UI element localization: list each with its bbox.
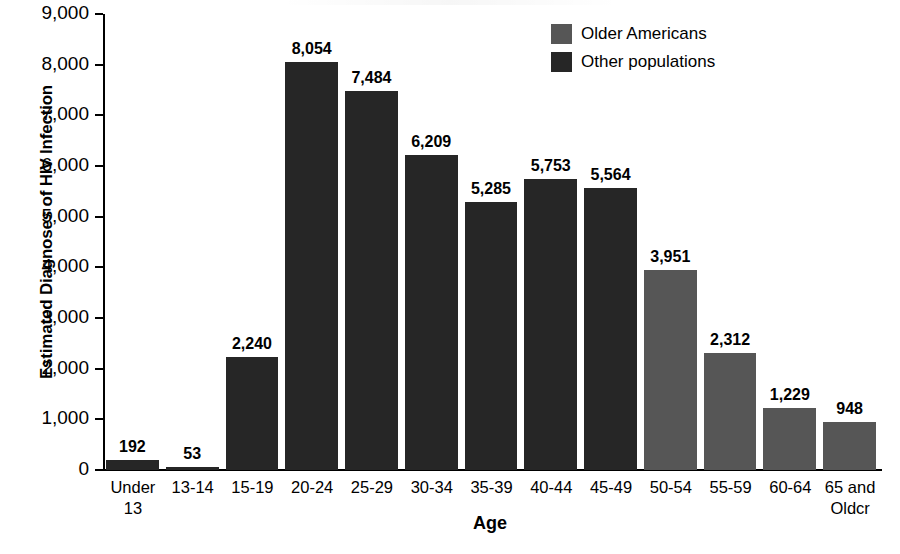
bar-column[interactable]: 192 — [106, 14, 159, 470]
bar-column[interactable]: 3,951 — [644, 14, 697, 470]
x-axis-tick-label: 65 and Oldcr — [814, 477, 886, 519]
bar-value-label: 2,312 — [710, 331, 750, 349]
legend-item-label: Older Americans — [581, 24, 707, 44]
bar-value-label: 7,484 — [351, 69, 391, 87]
y-axis-tick-label: 5,000 — [0, 205, 89, 227]
y-axis-tick-label: 0 — [0, 458, 89, 480]
y-axis-tick-mark — [95, 64, 103, 66]
bar-column[interactable]: 5,564 — [584, 14, 637, 470]
y-axis-tick-mark — [95, 165, 103, 167]
bar-column[interactable]: 5,285 — [465, 14, 518, 470]
bar-value-label: 2,240 — [232, 335, 272, 353]
bar[interactable] — [226, 357, 279, 470]
bar-column[interactable]: 948 — [823, 14, 876, 470]
y-axis-tick-mark — [95, 114, 103, 116]
legend-item-label: Other populations — [581, 52, 715, 72]
bar[interactable] — [763, 408, 816, 470]
bar[interactable] — [465, 202, 518, 470]
scan-artifact — [280, 0, 620, 5]
bar[interactable] — [285, 62, 338, 470]
bar[interactable] — [405, 155, 458, 470]
bar-value-label: 6,209 — [411, 133, 451, 151]
y-axis-tick-mark — [95, 368, 103, 370]
bar[interactable] — [345, 91, 398, 470]
hiv-diagnoses-by-age-bar-chart: Estimated Diagnoses of HIV Infection 9,0… — [0, 0, 900, 554]
bar-value-label: 5,285 — [471, 180, 511, 198]
bar-value-label: 5,753 — [531, 157, 571, 175]
y-axis-tick-mark — [95, 266, 103, 268]
bar-column[interactable]: 2,312 — [704, 14, 757, 470]
legend-item[interactable]: Older Americans — [551, 24, 715, 44]
bar[interactable] — [166, 467, 219, 470]
bar-column[interactable]: 7,484 — [345, 14, 398, 470]
bar-value-label: 948 — [836, 400, 863, 418]
bar-column[interactable]: 53 — [166, 14, 219, 470]
legend-color-swatch — [551, 52, 572, 72]
y-axis-tick-label: 7,000 — [0, 103, 89, 125]
legend-item[interactable]: Other populations — [551, 52, 715, 72]
plot-area: 192532,2408,0547,4846,2095,2855,7535,564… — [103, 14, 880, 470]
bar[interactable] — [644, 270, 697, 470]
y-axis-tick-mark — [95, 13, 103, 15]
bar-column[interactable]: 2,240 — [226, 14, 279, 470]
bar[interactable] — [823, 422, 876, 470]
y-axis-tick-label: 4,000 — [0, 255, 89, 277]
bar[interactable] — [584, 188, 637, 470]
y-axis-tick-mark — [95, 216, 103, 218]
bar-value-label: 5,564 — [590, 166, 630, 184]
bar-value-label: 1,229 — [770, 386, 810, 404]
bar[interactable] — [106, 460, 159, 470]
bar-value-label: 53 — [183, 445, 201, 463]
legend-color-swatch — [551, 24, 572, 44]
y-axis-tick-mark — [95, 418, 103, 420]
bar-column[interactable]: 5,753 — [524, 14, 577, 470]
bar[interactable] — [704, 353, 757, 470]
bar[interactable] — [524, 179, 577, 470]
y-axis-tick-label: 1,000 — [0, 407, 89, 429]
bar-column[interactable]: 8,054 — [285, 14, 338, 470]
y-axis-tick-label: 2,000 — [0, 357, 89, 379]
bar-value-label: 192 — [119, 438, 146, 456]
bar-value-label: 3,951 — [650, 248, 690, 266]
y-axis-tick-label: 6,000 — [0, 154, 89, 176]
y-axis-tick-label: 3,000 — [0, 306, 89, 328]
y-axis-tick-mark — [95, 317, 103, 319]
x-axis-title: Age — [390, 513, 590, 534]
y-axis-tick-label: 8,000 — [0, 53, 89, 75]
bar-value-label: 8,054 — [292, 40, 332, 58]
y-axis-tick-mark — [95, 469, 103, 471]
y-axis-tick-label: 9,000 — [0, 2, 89, 24]
bar-column[interactable]: 1,229 — [763, 14, 816, 470]
chart-legend: Older AmericansOther populations — [551, 24, 715, 80]
bar-column[interactable]: 6,209 — [405, 14, 458, 470]
